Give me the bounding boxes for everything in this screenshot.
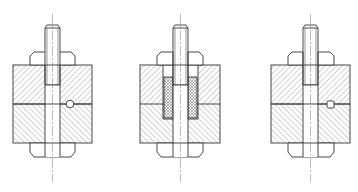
square-key-icon (327, 101, 334, 108)
top-plate-right (60, 65, 92, 104)
top-plate-left (271, 65, 303, 104)
figure-1-round-pin (13, 14, 92, 182)
sleeve-right-wall (188, 77, 197, 118)
top-plate-right (318, 65, 350, 104)
bottom-plate-left (13, 104, 45, 143)
figure-3-square-key (271, 14, 350, 182)
top-plate-left (13, 65, 45, 104)
bottom-plate-right (318, 104, 350, 143)
figure-2-sleeve (140, 14, 220, 182)
sleeve-left-wall (164, 77, 173, 118)
bottom-plate-right (60, 104, 92, 143)
round-pin-icon (66, 100, 74, 108)
bottom-plate-left (271, 104, 303, 143)
drawing-canvas (0, 0, 358, 192)
